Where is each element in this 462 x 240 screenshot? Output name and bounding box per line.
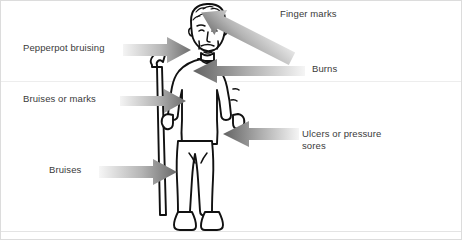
arrow-finger-marks	[197, 15, 297, 59]
walking-stick	[151, 53, 166, 215]
label-bruises: Bruises	[49, 164, 81, 176]
label-ulcers-or-pressure-sores: Ulcers or pressure sores	[302, 128, 381, 151]
arrow-pepperpot-bruising	[123, 37, 191, 63]
legs	[174, 141, 223, 230]
label-finger-marks: Finger marks	[280, 8, 337, 20]
label-bruises-or-marks: Bruises or marks	[23, 93, 96, 105]
arrow-bruises-or-marks	[120, 89, 186, 113]
arrow-burns	[193, 59, 305, 83]
arrow-ulcers-or-pressure-sores	[223, 121, 299, 147]
label-burns: Burns	[312, 63, 337, 75]
arrow-bruises	[99, 159, 177, 185]
label-pepperpot-bruising: Pepperpot bruising	[23, 42, 105, 54]
body-map-diagram: .ln{fill:#ffffff;stroke:#111111;stroke-w…	[0, 0, 462, 240]
